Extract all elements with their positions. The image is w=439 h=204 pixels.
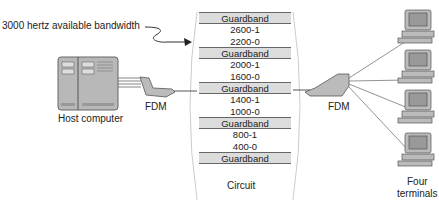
terminal-icons <box>398 10 434 166</box>
fdm-left-label: FDM <box>145 101 167 112</box>
terminals-label-line1: Four <box>397 176 438 188</box>
frequency-row: 2600-1 <box>199 24 291 36</box>
guardband-row: Guardband <box>199 82 291 94</box>
host-computer-label: Host computer <box>58 113 123 124</box>
arrow-head-icon <box>184 38 192 46</box>
guardband-row: Guardband <box>199 47 291 59</box>
frequency-row: 2000-1 <box>199 59 291 71</box>
terminals-label-line2: terminals <box>397 188 438 200</box>
frequency-row: 1400-1 <box>199 94 291 106</box>
guardband-row: Guardband <box>199 117 291 129</box>
guardband-row: Guardband <box>199 152 291 164</box>
fdm-right-icon <box>305 74 349 96</box>
circuit-label: Circuit <box>227 180 255 191</box>
frequency-row: 400-0 <box>199 141 291 153</box>
pointer-arrow <box>145 27 188 42</box>
frequency-row: 1000-0 <box>199 106 291 118</box>
circuit-channel-table: Guardband2600-12200-0Guardband2000-11600… <box>199 12 291 164</box>
frequency-row: 1600-0 <box>199 71 291 83</box>
fdm-right-label: FDM <box>328 101 350 112</box>
bandwidth-annotation: 3000 hertz available bandwidth <box>2 20 140 31</box>
frequency-row: 800-1 <box>199 129 291 141</box>
frequency-row: 2200-0 <box>199 36 291 48</box>
guardband-row: Guardband <box>199 12 291 24</box>
terminals-label: Four terminals <box>397 176 438 200</box>
host-computer-icon <box>58 57 118 110</box>
fdm-left-icon <box>140 77 175 97</box>
